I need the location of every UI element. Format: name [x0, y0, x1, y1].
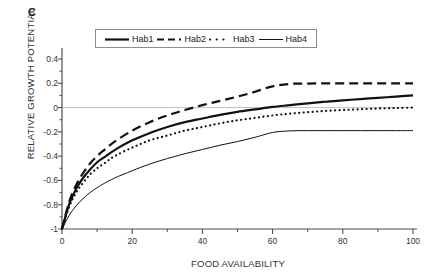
line-solid-thick-icon [104, 35, 130, 44]
series-line-hab3 [62, 108, 413, 229]
legend-item-hab4[interactable]: Hab4 [258, 35, 311, 44]
legend: Hab1Hab2Hab3Hab4 [95, 29, 317, 48]
legend-label: Hab2 [182, 35, 209, 44]
series-line-hab1 [62, 95, 413, 229]
line-solid-thin-icon [258, 35, 284, 44]
line-dashed-icon [156, 35, 182, 44]
legend-item-hab3[interactable]: Hab3 [209, 35, 258, 44]
legend-label: Hab3 [231, 35, 258, 44]
line-dotted-icon [209, 35, 231, 44]
legend-item-hab1[interactable]: Hab1 [104, 35, 157, 44]
legend-label: Hab4 [284, 35, 311, 44]
figure-panel-c: C RELATIVE GROWTH POTENTIAL FOOD AVAILAB… [0, 0, 437, 280]
series-line-hab4 [62, 131, 413, 229]
legend-items: Hab1Hab2Hab3Hab4 [96, 30, 318, 49]
legend-item-hab2[interactable]: Hab2 [156, 35, 209, 44]
legend-label: Hab1 [130, 35, 157, 44]
series-line-hab2 [62, 83, 413, 229]
